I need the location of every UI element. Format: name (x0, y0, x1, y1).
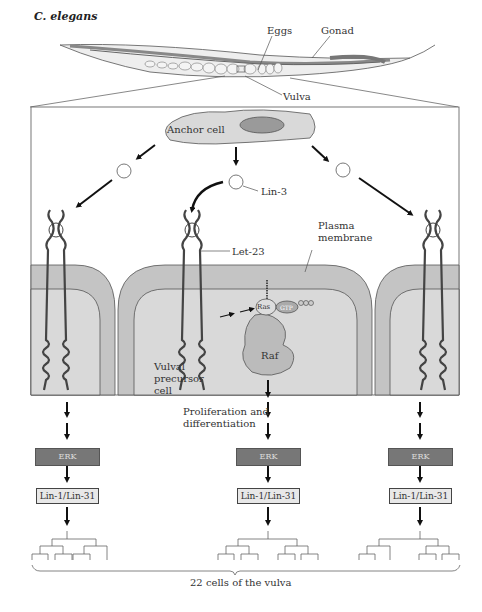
footer-caption: 22 cells of the vulva (190, 577, 291, 588)
label-raf: Raf (261, 350, 278, 361)
label-plasma: Plasma (318, 220, 354, 231)
worm-illustration (30, 36, 458, 107)
label-ras: Ras (257, 302, 270, 313)
label-membrane: membrane (318, 232, 372, 243)
label-precursor: precursor (154, 373, 204, 384)
lin-box-right: Lin-1/Lin-31 (389, 488, 452, 504)
label-vulva: Vulva (283, 91, 311, 102)
diagram-graphics (0, 0, 482, 612)
erk-box-middle: ERK (236, 448, 301, 466)
label-differentiation: differentiation (183, 418, 256, 429)
erk-box-right: ERK (388, 448, 453, 466)
brace (32, 565, 460, 575)
lin-box-left: Lin-1/Lin-31 (36, 488, 99, 504)
label-eggs: Eggs (267, 25, 292, 36)
erk-box-left: ERK (35, 448, 100, 466)
label-anchor-cell: Anchor cell (167, 124, 225, 135)
label-let23: Let-23 (232, 246, 265, 257)
label-cell: cell (154, 385, 172, 396)
anchor-nucleus (240, 117, 284, 133)
label-lin3: Lin-3 (261, 186, 287, 197)
label-proliferation: Proliferation and (183, 406, 269, 417)
label-gtp: GTP (280, 302, 293, 313)
organism-title: C. elegans (34, 10, 97, 23)
label-vulval: Vulval (154, 361, 185, 372)
label-gonad: Gonad (321, 25, 354, 36)
lin-box-middle: Lin-1/Lin-31 (237, 488, 300, 504)
